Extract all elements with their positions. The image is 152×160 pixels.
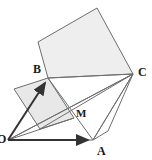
vertex-label-O: O (0, 133, 6, 145)
geometry-figure: B C M A O (0, 0, 152, 160)
vertex-label-B: B (33, 63, 41, 75)
large-square-on-BC (38, 8, 133, 78)
segment-C-to-lower-right-vertex (108, 74, 133, 131)
vertex-label-M: M (76, 108, 86, 119)
vertex-label-A: A (97, 145, 106, 157)
vertex-label-C: C (138, 66, 147, 78)
geometry-canvas (0, 0, 152, 160)
